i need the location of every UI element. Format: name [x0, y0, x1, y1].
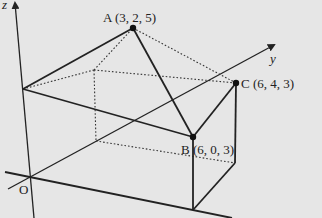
point-c	[233, 80, 239, 86]
point-c-label: C (6, 4, 3)	[241, 76, 294, 91]
y-axis-label: y	[268, 51, 276, 66]
z-axis-label: z	[1, 0, 7, 12]
point-b-label: B (6, 0, 3)	[181, 142, 234, 157]
point-a	[130, 25, 136, 31]
x-axis	[5, 172, 232, 218]
origin-label: O	[19, 182, 28, 197]
y-axis	[8, 45, 274, 189]
point-b	[190, 134, 196, 140]
point-a-label: A (3, 2, 5)	[103, 10, 156, 25]
diagram-canvas: z y O A (3, 2, 5) B (6, 0, 3) C (6, 4, 3…	[0, 0, 322, 218]
